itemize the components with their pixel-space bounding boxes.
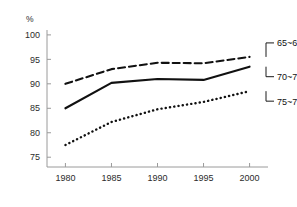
y-axis-tick-label: 100 — [25, 30, 40, 40]
chart-container: % 7580859095100 19801985199019952000 65~… — [0, 0, 297, 207]
series-label: 70~74세 — [277, 72, 297, 82]
series-leader-line — [266, 91, 274, 101]
x-axis-tick-label: 1995 — [194, 173, 214, 183]
y-axis-tick-label: 75 — [30, 152, 40, 162]
series-leader-line — [266, 43, 274, 57]
series-label: 75~79세 — [277, 97, 297, 107]
series-line-solid — [65, 67, 249, 109]
data-series-group — [65, 57, 249, 145]
x-axis-tick-label: 1985 — [101, 173, 121, 183]
x-axis-tick-label: 2000 — [240, 173, 260, 183]
x-axis-tick-label: 1990 — [147, 173, 167, 183]
y-axis-unit-label: % — [26, 14, 34, 24]
series-leader-line — [266, 67, 274, 77]
line-chart: % 7580859095100 19801985199019952000 65~… — [0, 0, 297, 207]
y-axis-ticks — [47, 35, 51, 157]
y-axis-tick-label: 95 — [30, 55, 40, 65]
y-axis-tick-label: 85 — [30, 103, 40, 113]
y-axis: 7580859095100 — [25, 30, 51, 167]
x-axis-tick-labels: 19801985199019952000 — [55, 173, 259, 183]
series-annotations: 65~69세70~74세75~79세 — [266, 38, 297, 106]
x-axis: 19801985199019952000 — [47, 163, 268, 183]
y-axis-tick-label: 80 — [30, 128, 40, 138]
series-label: 65~69세 — [277, 38, 297, 48]
x-axis-ticks — [65, 163, 249, 167]
y-axis-tick-label: 90 — [30, 79, 40, 89]
x-axis-tick-label: 1980 — [55, 173, 75, 183]
series-line-dotted — [65, 91, 249, 145]
y-axis-tick-labels: 7580859095100 — [25, 30, 40, 162]
